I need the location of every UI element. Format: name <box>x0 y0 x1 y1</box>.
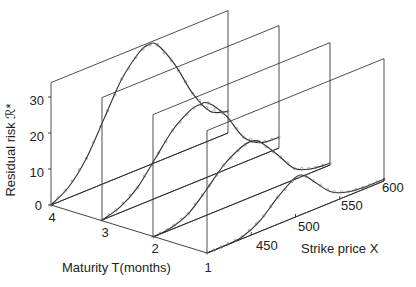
y-axis-ticks: 0 10 20 30 <box>30 93 44 213</box>
y-tick-label: 10 <box>30 165 44 180</box>
maturity-tick-label: 1 <box>204 260 211 275</box>
strike-tick-label: 600 <box>382 180 404 195</box>
maturity-axis-label: Maturity T(months) <box>62 260 171 275</box>
y-tick-label: 0 <box>35 198 42 213</box>
x-axis-label: Strike price X <box>301 241 379 256</box>
maturity-panels <box>50 11 385 255</box>
y-tick-label: 30 <box>30 93 44 108</box>
strike-tick-label: 450 <box>256 238 278 253</box>
y-tick-label: 20 <box>30 129 44 144</box>
strike-tick-label: 500 <box>298 219 320 234</box>
maturity-tick-label: 3 <box>101 225 108 240</box>
y-axis-label: Residual risk ℛ* <box>3 103 18 196</box>
maturity-tick-label: 2 <box>151 241 158 256</box>
residual-risk-waterfall-chart: 0 10 20 30 4 3 2 1 450 500 550 600 Resid… <box>0 0 416 287</box>
strike-tick-label: 550 <box>341 198 363 213</box>
maturity-tick-label: 4 <box>48 210 55 225</box>
